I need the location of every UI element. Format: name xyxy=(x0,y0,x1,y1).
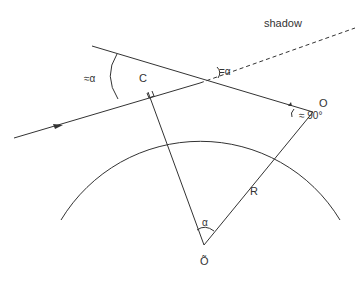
label-point-o: O xyxy=(319,97,328,109)
angle-arc-o xyxy=(291,109,294,117)
earth-arc xyxy=(61,141,340,220)
label-shadow: shadow xyxy=(264,17,302,29)
angle-arrow-icon xyxy=(288,102,292,106)
label-right-angle: ≈ 90° xyxy=(299,110,322,121)
tangent-line xyxy=(92,46,313,112)
diagram-canvas: shadow ≈α =α C O ≈ 90° R α Õ xyxy=(0,0,359,281)
label-angle-left: ≈α xyxy=(84,73,95,84)
label-center-angle: α xyxy=(202,217,208,228)
label-center: Õ xyxy=(200,255,209,267)
incoming-ray xyxy=(14,83,200,138)
angle-arc-left xyxy=(110,54,118,99)
label-radius: R xyxy=(250,185,258,197)
radius-line-o xyxy=(204,112,313,245)
ray-arrow-icon xyxy=(53,124,63,129)
radius-line-c xyxy=(148,92,204,245)
label-point-c: C xyxy=(139,72,147,84)
label-angle-top: =α xyxy=(219,66,231,77)
